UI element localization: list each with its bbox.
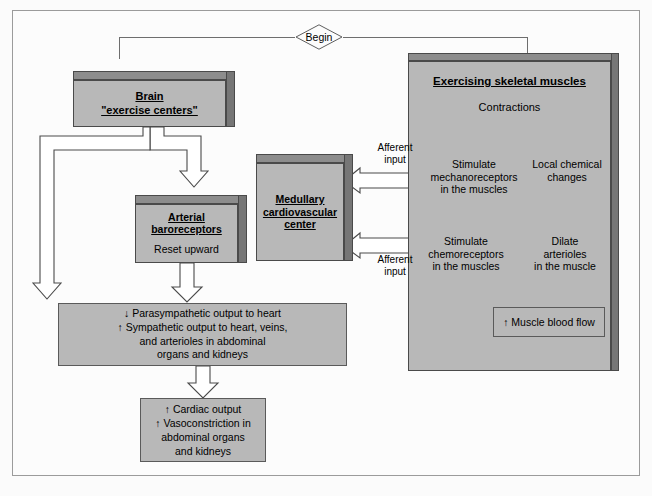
dilate-arterioles-line2: arterioles	[519, 248, 611, 261]
medullary-line2: cardiovascular	[263, 206, 337, 219]
stimulate-chemoreceptors-line2: chemoreceptors	[416, 248, 516, 261]
feedback-line-horizontal-right	[343, 37, 528, 38]
muscle-blood-flow-label: ↑ Muscle blood flow	[503, 316, 595, 328]
arterial-baroreceptors-box: Arterial baroreceptors Reset upward	[135, 204, 238, 263]
autonomic-output-line1: ↓ Parasympathetic output to heart	[124, 307, 281, 321]
local-chemical-changes-line1: Local chemical	[521, 158, 613, 171]
stimulate-chemoreceptors-label: Stimulate chemoreceptors in the muscles	[416, 235, 516, 273]
stimulate-mechanoreceptors-line3: in the muscles	[424, 183, 524, 196]
stimulate-mechanoreceptors-line1: Stimulate	[424, 158, 524, 171]
diagram-page: Begin Exercising skeletal muscles Contra…	[0, 0, 652, 496]
autonomic-output-line3: and arterioles in abdominal	[139, 335, 265, 349]
afferent-input-upper-line2: input	[365, 154, 425, 166]
feedback-line-horizontal-left	[119, 37, 295, 38]
stimulate-chemoreceptors-line1: Stimulate	[416, 235, 516, 248]
afferent-input-lower-line2: input	[365, 266, 425, 278]
diagram-frame: Begin Exercising skeletal muscles Contra…	[12, 10, 640, 476]
local-chemical-changes-line2: changes	[521, 171, 613, 184]
muscle-panel-bevel-top	[408, 53, 619, 61]
contractions-label: Contractions	[479, 101, 541, 115]
afferent-input-upper-line1: Afferent	[365, 142, 425, 154]
cardiac-outcome-box: ↑ Cardiac output ↑ Vasoconstriction in a…	[140, 398, 266, 462]
afferent-input-upper-label: Afferent input	[365, 142, 425, 166]
autonomic-to-cardiac-arrow	[186, 366, 220, 399]
cardiac-outcome-line2: ↑ Vasoconstriction in	[155, 416, 251, 430]
cardiac-outcome-line3: abdominal organs	[161, 430, 244, 444]
medullary-bevel-right	[344, 154, 353, 261]
baroreceptors-title-line2: baroreceptors	[151, 223, 222, 236]
medullary-bevel-top	[256, 154, 352, 163]
stimulate-mechanoreceptors-line2: mechanoreceptors	[424, 171, 524, 184]
dilate-arterioles-line3: in the muscle	[519, 260, 611, 273]
medullary-cardiovascular-center-box: Medullary cardiovascular center	[256, 163, 344, 261]
brain-title: Brain	[135, 90, 163, 103]
baroreceptors-bevel-top	[135, 195, 246, 204]
medullary-line3: center	[284, 218, 316, 231]
muscle-blood-flow-box: ↑ Muscle blood flow	[493, 307, 605, 337]
afferent-input-upper-arrow	[343, 168, 415, 194]
stimulate-chemoreceptors-line3: in the muscles	[416, 260, 516, 273]
cardiac-outcome-line4: and kidneys	[175, 444, 231, 458]
autonomic-output-line4: organs and kidneys	[157, 348, 248, 362]
brain-bevel-right	[226, 71, 235, 127]
baroreceptors-to-autonomic-arrow	[170, 263, 204, 303]
brain-box: Brain "exercise centers"	[73, 80, 226, 127]
medullary-line1: Medullary	[275, 193, 324, 206]
cardiac-outcome-line1: ↑ Cardiac output	[165, 402, 241, 416]
autonomic-output-box: ↓ Parasympathetic output to heart ↑ Symp…	[58, 303, 347, 366]
baroreceptors-title-line1: Arterial	[168, 211, 205, 224]
dilate-arterioles-label: Dilate arterioles in the muscle	[519, 235, 611, 273]
muscle-panel-title: Exercising skeletal muscles	[433, 74, 586, 88]
begin-label: Begin	[306, 31, 333, 43]
dilate-arterioles-line1: Dilate	[519, 235, 611, 248]
muscle-panel-bevel-right	[611, 53, 619, 371]
stimulate-mechanoreceptors-label: Stimulate mechanoreceptors in the muscle…	[424, 158, 524, 196]
begin-node: Begin	[295, 24, 343, 50]
brain-bevel-top	[73, 71, 234, 80]
afferent-input-lower-label: Afferent input	[365, 254, 425, 278]
afferent-input-lower-line1: Afferent	[365, 254, 425, 266]
brain-subtitle: "exercise centers"	[101, 104, 198, 117]
local-chemical-changes-label: Local chemical changes	[521, 158, 613, 183]
autonomic-output-line2: ↑ Sympathetic output to heart, veins,	[118, 321, 288, 335]
baroreceptors-bevel-right	[238, 195, 247, 263]
feedback-line-vertical	[119, 37, 120, 59]
baroreceptors-body: Reset upward	[154, 243, 219, 256]
